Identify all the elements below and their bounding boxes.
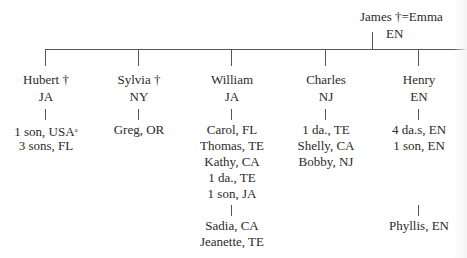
grand-descendant-william-1: Jeanette, TE (200, 234, 264, 250)
drop-henry (418, 49, 419, 66)
child-location-charles: NJ (319, 89, 333, 105)
child-location-hubert: JA (39, 89, 53, 105)
parents-label: James †=Emma (360, 9, 443, 25)
page-edge-shadow (453, 0, 467, 258)
child-name-sylvia: Sylvia † (118, 72, 161, 88)
descendant-william-2: Kathy, CA (204, 154, 260, 170)
child-name-william: William (211, 72, 253, 88)
grand-descendant-william-0: Sadia, CA (205, 218, 258, 234)
connector-sylvia (138, 109, 139, 120)
descendant-henry-1: 1 son, EN (393, 138, 445, 154)
connector-hubert (45, 109, 46, 120)
descendant-charles-0: 1 da., TE (302, 122, 349, 138)
descendant-sylvia-0: Greg, OR (114, 122, 165, 138)
descendant-charles-1: Shelly, CA (298, 138, 355, 154)
connector-william (231, 109, 232, 120)
descendant-william-3: 1 da., TE (208, 170, 255, 186)
parents-connector (372, 32, 373, 49)
drop-charles (325, 49, 326, 66)
descendant-charles-2: Bobby, NJ (299, 154, 354, 170)
child-name-charles: Charles (306, 72, 346, 88)
child-location-sylvia: NY (130, 89, 149, 105)
drop-william (231, 49, 232, 66)
sibling-bar (45, 49, 467, 50)
descendant-william-0: Carol, FL (207, 122, 258, 138)
child-name-henry: Henry (403, 72, 436, 88)
child-location-william: JA (225, 89, 239, 105)
child-location-henry: EN (410, 89, 427, 105)
connector-henry (418, 109, 419, 120)
descendant-hubert-1: 3 sons, FL (19, 138, 74, 154)
drop-sylvia (138, 49, 139, 66)
connector-charles (325, 109, 326, 120)
parents-location: EN (386, 26, 403, 42)
descendant-william-4: 1 son, JA (208, 186, 257, 202)
grand-descendant-henry-0: Phyllis, EN (389, 218, 449, 234)
connector-henry-grand (418, 205, 419, 216)
drop-hubert (45, 49, 46, 66)
descendant-william-1: Thomas, TE (200, 138, 264, 154)
connector-william-grand (231, 205, 232, 216)
descendant-henry-0: 4 da.s, EN (392, 122, 446, 138)
child-name-hubert: Hubert † (23, 72, 69, 88)
